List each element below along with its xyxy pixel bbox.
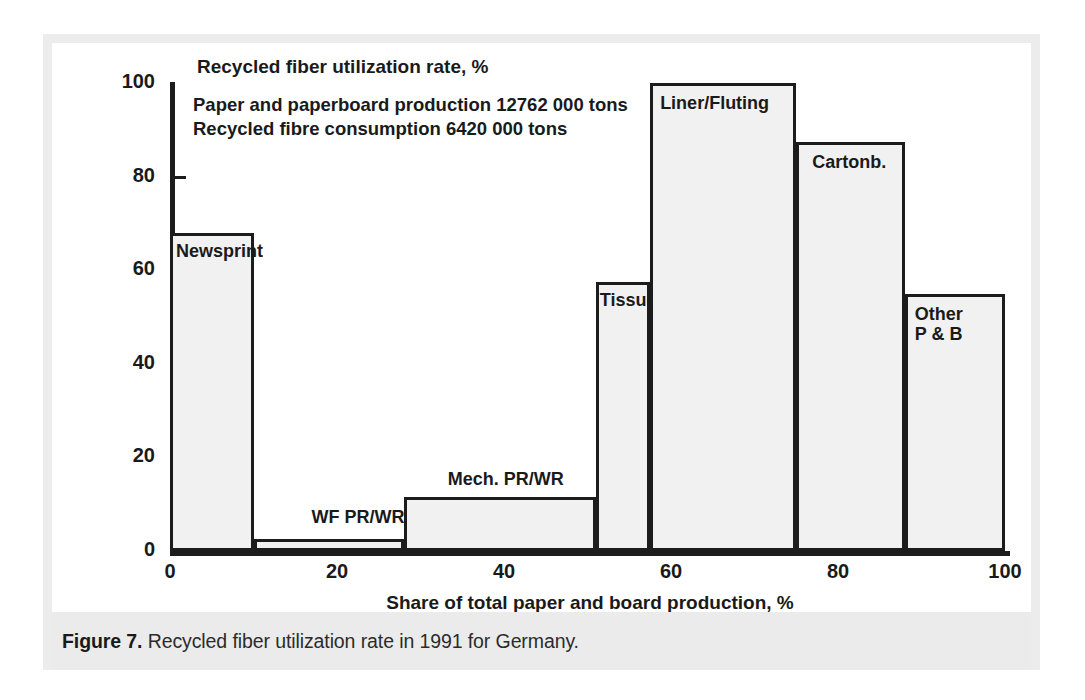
x-axis-tick-label: 40 — [469, 560, 539, 583]
y-axis-title: Recycled fiber utilization rate, % — [197, 56, 488, 78]
bar-other-p-b[interactable] — [905, 294, 1005, 551]
x-axis-tick-label: 80 — [803, 560, 873, 583]
figure-caption: Figure 7. Recycled fiber utilization rat… — [62, 630, 579, 653]
y-axis-tick-label: 40 — [95, 351, 155, 374]
annotation-line-2: Recycled fibre consumption 6420 000 tons — [193, 117, 628, 141]
y-axis-tick-label: 20 — [95, 444, 155, 467]
x-axis-tick-label: 20 — [302, 560, 372, 583]
figure-page: Recycled fiber utilization rate, % Paper… — [0, 0, 1085, 700]
y-axis-tick-label: 100 — [95, 70, 155, 93]
bar-mech-pr-wr[interactable] — [404, 497, 596, 551]
x-axis-tick-label: 60 — [636, 560, 706, 583]
bar-newsprint[interactable] — [170, 233, 254, 551]
bar-tissue[interactable] — [596, 282, 650, 551]
y-axis-tick-label: 80 — [95, 164, 155, 187]
bar-wf-pr-wr[interactable] — [254, 539, 404, 551]
x-axis-tick-label: 0 — [135, 560, 205, 583]
x-axis-tick-label: 100 — [970, 560, 1040, 583]
x-axis-title: Share of total paper and board productio… — [170, 592, 1010, 614]
y-axis-tick — [175, 176, 186, 179]
bar-cartonb[interactable] — [796, 142, 905, 552]
figure-caption-text: Recycled fiber utilization rate in 1991 … — [142, 630, 579, 652]
y-axis-tick-label: 0 — [95, 538, 155, 561]
y-axis-tick-label: 60 — [95, 257, 155, 280]
annotation-block: Paper and paperboard production 12762 00… — [193, 93, 628, 140]
annotation-line-1: Paper and paperboard production 12762 00… — [193, 93, 628, 117]
bar-liner-fluting[interactable] — [650, 83, 796, 551]
x-axis-line — [170, 551, 1010, 556]
figure-number: Figure 7. — [62, 630, 142, 652]
